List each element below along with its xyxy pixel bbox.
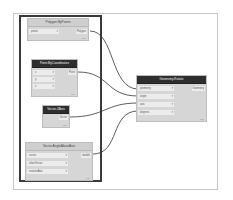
input-port-x[interactable]: x > bbox=[33, 70, 55, 75]
wire-double-to-degrees[interactable] bbox=[93, 111, 138, 154]
node-title: Vector.AngleAboutAxis bbox=[26, 143, 92, 151]
node-title: Point.ByCoordinates bbox=[32, 60, 77, 68]
arrow-right-icon: > bbox=[52, 84, 54, 89]
input-port-z[interactable]: z > bbox=[33, 84, 55, 89]
arrow-right-icon: > bbox=[65, 153, 67, 158]
node-geometry-rotate[interactable]: Geometry.Rotate geometry > origin > axis… bbox=[136, 75, 207, 122]
arrow-right-icon: > bbox=[52, 77, 54, 82]
input-port-vector[interactable]: vector > bbox=[27, 153, 68, 158]
node-title: Geometry.Rotate bbox=[137, 76, 206, 84]
lacing-label: auto bbox=[63, 124, 67, 126]
input-port-points[interactable]: points > bbox=[29, 29, 59, 34]
input-port-y[interactable]: y > bbox=[33, 77, 55, 82]
input-port-other-vector[interactable]: otherVector > bbox=[27, 161, 68, 166]
lacing-label: auto bbox=[200, 118, 204, 120]
arrow-right-icon: > bbox=[171, 86, 173, 91]
output-port-geometry[interactable]: Geometry bbox=[192, 86, 205, 91]
output-port-polygon[interactable]: Polygon bbox=[76, 29, 87, 34]
node-title: Polygon.ByPoints bbox=[28, 19, 88, 27]
arrow-right-icon: > bbox=[52, 70, 54, 75]
node-title: Vector.ZAxis bbox=[43, 106, 69, 114]
lacing-label: auto bbox=[86, 177, 90, 179]
node-point-by-coordinates[interactable]: Point.ByCoordinates x > y > z > Point au… bbox=[31, 59, 78, 97]
input-port-degrees[interactable]: degrees > bbox=[138, 110, 174, 115]
lacing-label: auto bbox=[82, 37, 86, 39]
output-port-vector[interactable]: Vector bbox=[59, 115, 68, 120]
node-polygon-by-points[interactable]: Polygon.ByPoints points > Polygon auto bbox=[27, 18, 89, 41]
wire-polygon-to-geometry[interactable] bbox=[90, 31, 138, 89]
input-port-origin[interactable]: origin > bbox=[138, 94, 174, 99]
node-vector-angle-about-axis[interactable]: Vector.AngleAboutAxis vector > otherVect… bbox=[25, 142, 93, 181]
arrow-right-icon: > bbox=[65, 169, 67, 174]
arrow-right-icon: > bbox=[65, 161, 67, 166]
wire-point-to-origin[interactable] bbox=[78, 72, 138, 96]
arrow-right-icon: > bbox=[171, 110, 173, 115]
node-vector-zaxis[interactable]: Vector.ZAxis Vector auto bbox=[42, 105, 70, 128]
arrow-right-icon: > bbox=[171, 102, 173, 107]
input-port-axis[interactable]: axis > bbox=[138, 102, 174, 107]
output-port-point[interactable]: Point bbox=[68, 70, 76, 75]
input-port-geometry[interactable]: geometry > bbox=[138, 86, 174, 91]
arrow-right-icon: > bbox=[56, 29, 58, 34]
wire-vector-to-axis[interactable] bbox=[70, 103, 138, 117]
lacing-label: auto bbox=[71, 93, 75, 95]
input-port-rotation-axis[interactable]: rotationAxis > bbox=[27, 169, 68, 174]
output-port-double[interactable]: double bbox=[81, 153, 91, 158]
arrow-right-icon: > bbox=[171, 94, 173, 99]
